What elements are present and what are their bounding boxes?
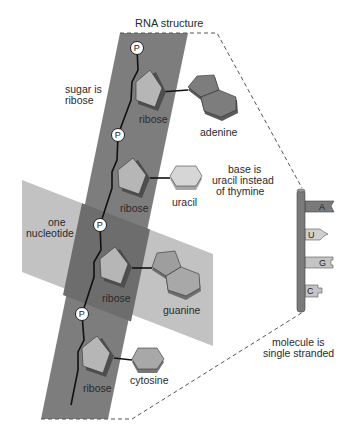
phosphate-label: P	[97, 220, 103, 230]
base-label-guanine: guanine	[163, 304, 201, 316]
tab-letter: G	[319, 258, 326, 268]
base-label-cytosine: cytosine	[130, 374, 169, 386]
diagram-canvas: P ribose adenine P ribose uracil	[0, 0, 355, 441]
phosphate-label: P	[115, 130, 121, 140]
uracil-base-icon	[170, 166, 202, 190]
molecule-tab-u: U	[305, 229, 328, 240]
cytosine-base-icon	[132, 348, 164, 373]
single-strand-molecule: A U G C	[297, 189, 334, 312]
rna-structure-diagram: P ribose adenine P ribose uracil	[0, 0, 355, 441]
molecule-tab-c: C	[305, 285, 322, 297]
annotation-sugar-line2: ribose	[65, 94, 94, 106]
molecule-tab-a: A	[305, 201, 334, 212]
molecule-tab-g: G	[305, 257, 333, 268]
adenine-base-icon	[188, 75, 238, 121]
annotation-nucleotide-line2: nucleotide	[26, 227, 74, 239]
phosphate-label: P	[79, 309, 85, 319]
base-label-adenine: adenine	[200, 126, 238, 138]
tab-letter: U	[308, 230, 315, 240]
annotation-base-line3: of thymine	[216, 185, 265, 197]
molecule-rod	[297, 190, 305, 312]
sugar-label: ribose	[83, 382, 112, 394]
sugar-label: ribose	[120, 202, 149, 214]
annotation-strand-line2: single stranded	[263, 347, 334, 359]
diagram-title: RNA structure	[135, 17, 203, 29]
base-label-uracil: uracil	[172, 196, 197, 208]
sugar-label: ribose	[102, 292, 131, 304]
tab-letter: C	[307, 286, 314, 296]
phosphate-label: P	[134, 43, 140, 53]
sugar-label: ribose	[139, 113, 168, 125]
tab-letter: A	[319, 202, 325, 212]
